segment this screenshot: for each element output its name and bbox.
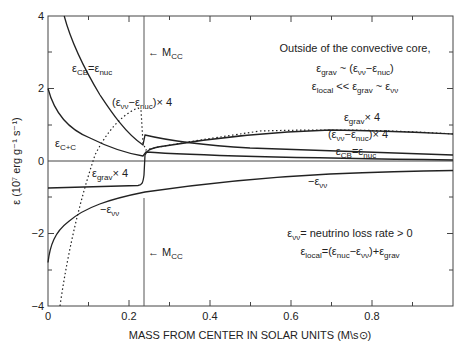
- x-tick-label: 0.8: [364, 310, 379, 322]
- label-grav-x4-right: εgrav× 4: [344, 111, 380, 126]
- label-minus-nunu-right: −ενν: [308, 175, 327, 190]
- label-grav-x4-left: εgrav× 4: [92, 167, 128, 182]
- label-eps-cb: εCB=εnuc: [72, 62, 112, 77]
- label-eps-cc: εC+C: [55, 137, 76, 152]
- y-tick-label: 2: [38, 82, 44, 94]
- label-mcc-bottom: ← MCC: [148, 246, 183, 261]
- y-axis-title: ε (10⁷ erg g⁻¹ s⁻¹): [10, 117, 22, 205]
- x-tick-label: 0.6: [283, 310, 298, 322]
- note-local-relation: εlocal << εgrav ~ ενν: [312, 80, 398, 95]
- x-tick-label: 0.2: [121, 310, 136, 322]
- label-mcc-top: ← MCC: [148, 46, 183, 61]
- x-tick-label: 0.4: [202, 310, 217, 322]
- x-tick-label: 0: [45, 310, 51, 322]
- y-tick-label: −4: [31, 300, 44, 312]
- note-neutrino-loss: ενν= neutrino loss rate > 0: [287, 227, 412, 242]
- label-nunu-nuc-x4-left: (ενν−εnuc)× 4: [112, 96, 172, 111]
- chart-svg: 0 0.2 0.4 0.6 0.8 4 2 0 −2 −4 MASS FROM …: [0, 0, 460, 348]
- x-axis-title: MASS FROM CENTER IN SOLAR UNITS (M\s⊙): [129, 329, 371, 341]
- note-grav-relation: εgrav ~ (ενν−εnuc): [316, 62, 394, 77]
- curve-eps-cc: [48, 89, 453, 161]
- note-outside-core: Outside of the convective core,: [279, 42, 430, 54]
- note-local-definition: εlocal=(εnuc−ενν)+εgrav: [300, 245, 399, 260]
- curve-nunu-minus-nuc-x4: [60, 108, 453, 306]
- curve-minus-eps-nunu: [48, 171, 453, 263]
- y-tick-label: −2: [31, 227, 44, 239]
- label-eps-cb-right: εCB=εnuc: [336, 145, 376, 160]
- y-tick-label: 4: [38, 10, 44, 22]
- y-tick-label: 0: [38, 155, 44, 167]
- label-minus-nunu-left: −ενν: [100, 203, 119, 218]
- chart-figure: 0 0.2 0.4 0.6 0.8 4 2 0 −2 −4 MASS FROM …: [0, 0, 460, 348]
